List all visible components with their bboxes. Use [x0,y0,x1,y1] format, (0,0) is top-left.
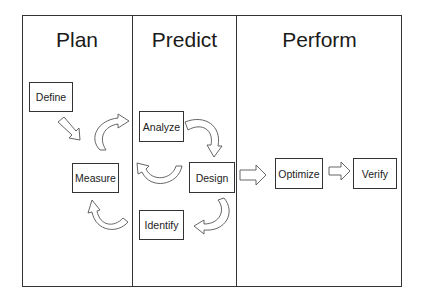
arrow-design-to-identify-icon [194,198,229,234]
step-identify: Identify [139,210,184,240]
step-analyze: Analyze [139,111,184,142]
step-optimize: Optimize [275,158,323,189]
arrow-design-to-optimize-icon [240,165,266,185]
arrow-optimize-to-verify-icon [329,162,350,180]
step-design: Design [189,162,235,193]
step-verify: Verify [353,158,397,189]
step-measure: Measure [72,163,119,193]
flow-arrows [0,0,424,302]
plan-predict-perform-diagram: Plan Predict Perform Define Measure Anal… [0,0,424,302]
arrow-measure-to-analyze-icon [95,114,129,150]
arrow-design-to-measure-icon [137,163,182,183]
step-define: Define [29,82,73,112]
arrow-identify-to-measure-icon [88,200,128,229]
arrow-analyze-to-design-icon [185,119,222,157]
arrow-define-to-measure-icon [58,117,80,140]
